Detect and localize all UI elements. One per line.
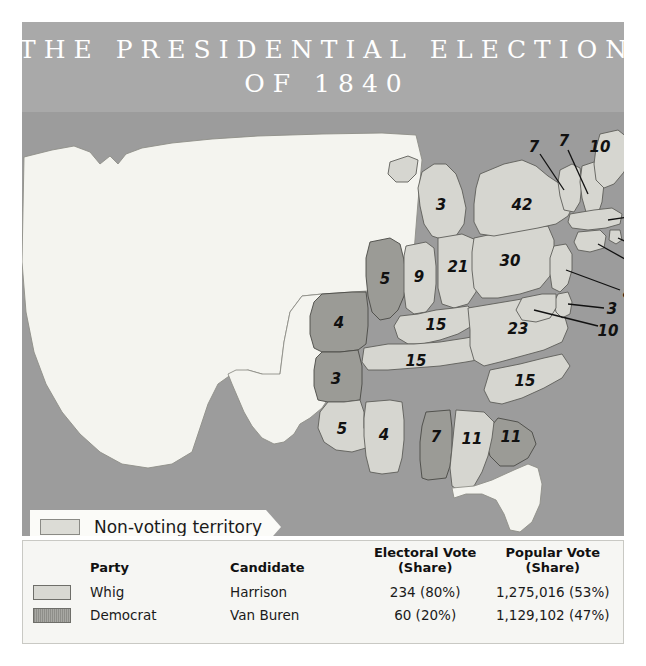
header-candidate: Candidate [226,541,368,581]
ev-label-missouri: 4 [333,314,344,332]
ev-label-ohio: 21 [448,258,469,276]
ev-label-alabama: 7 [431,428,442,446]
row-swatch-democrat [23,604,86,627]
ev-label-louisiana: 5 [337,420,347,438]
ev-label-vermont: 7 [529,138,540,156]
ev-label-new-hampshire: 7 [559,132,570,150]
table-row: Democrat Van Buren 60 (20%) 1,129,102 (4… [23,604,623,627]
header-swatch [23,541,86,581]
ev-label-new-jersey: 8 [623,284,624,302]
row-swatch-whig [23,581,86,604]
row-candidate-van-buren: Van Buren [226,604,368,627]
ev-label-illinois: 5 [380,270,390,288]
whig-color-swatch [33,585,71,600]
ev-label-maryland: 10 [598,322,619,340]
table-row: Whig Harrison 234 (80%) 1,275,016 (53%) [23,581,623,604]
ev-label-north-carolina: 15 [515,372,536,390]
nonvoting-legend-label: Non-voting territory [94,517,262,536]
ev-label-virginia: 23 [508,320,529,338]
row-party-whig: Whig [86,581,226,604]
row-popular-whig: 1,275,016 (53%) [482,581,623,604]
ev-label-maine: 10 [590,138,611,156]
row-popular-democrat: 1,129,102 (47%) [482,604,623,627]
header-electoral-main: Electoral Vote [372,545,479,560]
title-banner: THE PRESIDENTIAL ELECTION OF 1840 [22,22,624,112]
ev-label-new-york: 42 [511,196,533,214]
page-title-line-2: OF 1840 [236,67,409,101]
ev-label-tennessee: 15 [406,352,427,370]
results-table: Party Candidate Electoral Vote (Share) P… [23,541,623,627]
header-electoral-sub: (Share) [372,560,479,575]
state-new-jersey [550,244,572,292]
results-panel: Party Candidate Electoral Vote (Share) P… [22,540,624,644]
map-panel: 3 5 9 21 4 15 15 3 5 4 7 11 11 15 23 30 … [22,112,624,536]
nonvoting-swatch [40,519,80,535]
page-title-line-1: THE PRESIDENTIAL ELECTION [11,33,635,67]
ev-label-mississippi: 4 [378,426,389,444]
row-electoral-democrat: 60 (20%) [368,604,483,627]
header-popular-main: Popular Vote [486,545,619,560]
leader-line-new-jersey [566,270,620,290]
header-popular-sub: (Share) [486,560,619,575]
row-party-democrat: Democrat [86,604,226,627]
header-party: Party [86,541,226,581]
state-maryland [516,294,556,322]
header-electoral-vote: Electoral Vote (Share) [368,541,483,581]
ev-label-georgia: 11 [462,430,483,448]
row-candidate-harrison: Harrison [226,581,368,604]
ev-label-kentucky: 15 [426,316,447,334]
us-election-map: 3 5 9 21 4 15 15 3 5 4 7 11 11 15 23 30 … [22,112,624,536]
democrat-color-swatch [33,608,71,623]
ev-label-arkansas: 3 [331,370,341,388]
header-popular-vote: Popular Vote (Share) [482,541,623,581]
table-header-row: Party Candidate Electoral Vote (Share) P… [23,541,623,581]
nonvoting-territory-legend: Non-voting territory [30,510,266,536]
row-electoral-whig: 234 (80%) [368,581,483,604]
state-georgia [450,410,494,492]
ev-label-indiana: 9 [414,268,424,286]
state-connecticut [574,230,606,252]
state-rhode-island [609,230,622,244]
leader-line-delaware [568,304,604,308]
ev-label-south-carolina: 11 [501,428,522,446]
ev-label-delaware: 3 [607,300,617,318]
ev-label-pennsylvania: 30 [500,252,521,270]
ev-label-michigan: 3 [436,196,446,214]
election-map-figure: THE PRESIDENTIAL ELECTION OF 1840 [22,22,624,644]
